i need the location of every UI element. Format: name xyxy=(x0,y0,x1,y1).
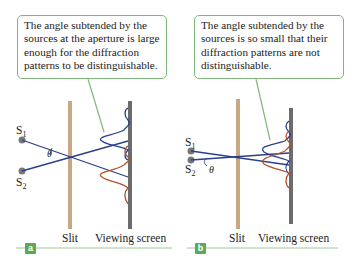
panel-b-graphics xyxy=(188,79,294,229)
label-slit-a: Slit xyxy=(62,232,78,244)
label-theta-a: θ xyxy=(47,148,52,159)
label-s2-b: S2 xyxy=(185,163,195,178)
label-s1-a: S1 xyxy=(16,124,26,139)
label-slit-b: Slit xyxy=(229,232,245,244)
callout-b-pointer xyxy=(256,79,270,140)
panel-a-graphics xyxy=(19,79,133,229)
viewing-screen-b xyxy=(289,108,293,224)
slit-b xyxy=(236,99,240,229)
label-s2-a: S2 xyxy=(16,176,26,191)
panel-tag-a: a xyxy=(25,243,36,254)
label-s1-b: S1 xyxy=(185,136,195,151)
panel-tag-b: b xyxy=(195,243,206,254)
callout-a-pointer xyxy=(88,79,104,132)
label-screen-a: Viewing screen xyxy=(95,232,166,244)
label-theta-b: θ xyxy=(209,164,214,175)
slit-a xyxy=(68,101,72,229)
label-screen-b: Viewing screen xyxy=(258,232,329,244)
